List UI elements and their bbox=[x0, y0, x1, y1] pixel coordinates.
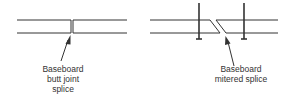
right-mitered-board bbox=[216, 20, 278, 33]
butt-joint-arrow-icon bbox=[61, 35, 71, 61]
right-board-piece bbox=[73, 20, 127, 33]
butt-joint-label-line-2: butt joint bbox=[32, 74, 94, 84]
butt-joint-label-line-1: Baseboard bbox=[32, 64, 94, 74]
butt-joint-label: Baseboard butt joint splice bbox=[32, 64, 94, 94]
mitered-splice-label-line-2: mitered splice bbox=[203, 74, 279, 84]
left-mitered-board bbox=[150, 20, 220, 33]
mitered-splice-label: Baseboard mitered splice bbox=[203, 64, 279, 84]
mitered-splice-arrow-icon bbox=[225, 36, 234, 66]
butt-joint-label-line-3: splice bbox=[32, 84, 94, 94]
mitered-splice-label-line-1: Baseboard bbox=[203, 64, 279, 74]
nail-icon bbox=[196, 3, 202, 39]
mitered-splice-drawing bbox=[150, 3, 278, 66]
nail-icon bbox=[241, 3, 247, 39]
left-board-piece bbox=[17, 20, 71, 33]
butt-joint-drawing bbox=[17, 20, 127, 61]
baseboard-splice-diagram: Baseboard butt joint splice Baseboard mi… bbox=[0, 0, 293, 101]
